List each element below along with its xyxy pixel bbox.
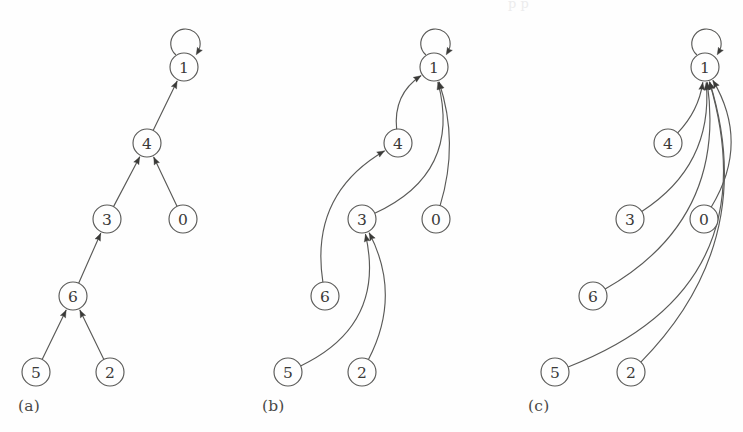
node-label: 3 xyxy=(357,211,367,229)
edge-a-0-to-4 xyxy=(154,157,177,206)
panel-label-c: (c) xyxy=(528,397,549,415)
edge-a-3-to-4 xyxy=(114,157,140,207)
node-label: 2 xyxy=(626,364,636,382)
node-a-4[interactable]: 4 xyxy=(133,129,161,157)
graph-canvas: 143065214306521430652 xyxy=(0,0,743,432)
node-label: 2 xyxy=(105,364,115,382)
node-a-3[interactable]: 3 xyxy=(93,205,121,233)
arrow-head xyxy=(377,151,385,157)
node-c-1[interactable]: 1 xyxy=(691,53,719,81)
edge-c-4-to-1 xyxy=(678,83,705,133)
node-label: 0 xyxy=(699,211,709,229)
node-label: 1 xyxy=(179,59,189,77)
edge-a-2-to-6 xyxy=(80,310,104,359)
self-loop-path xyxy=(692,29,721,55)
edge-a-6-to-3 xyxy=(79,233,101,283)
node-c-0[interactable]: 0 xyxy=(690,205,718,233)
edge-path xyxy=(114,157,140,207)
panel-label-a: (a) xyxy=(18,397,40,415)
node-label: 1 xyxy=(429,59,439,77)
edge-c-1-to-1 xyxy=(692,29,724,55)
node-label: 0 xyxy=(431,211,441,229)
node-c-5[interactable]: 5 xyxy=(541,358,569,386)
edge-path xyxy=(80,310,104,359)
node-label: 5 xyxy=(550,364,560,382)
node-label: 5 xyxy=(31,364,41,382)
node-c-3[interactable]: 3 xyxy=(616,205,644,233)
edge-b-1-to-1 xyxy=(421,29,453,55)
edge-path xyxy=(605,83,710,289)
self-loop-path xyxy=(421,29,450,55)
node-a-5[interactable]: 5 xyxy=(22,358,50,386)
self-loop-path xyxy=(171,29,200,55)
node-label: 5 xyxy=(283,364,293,382)
edge-b-2-to-3 xyxy=(368,233,385,360)
node-b-3[interactable]: 3 xyxy=(348,205,376,233)
edge-path xyxy=(153,81,177,130)
edges-layer xyxy=(42,29,731,367)
node-b-4[interactable]: 4 xyxy=(384,129,412,157)
node-label: 0 xyxy=(178,211,188,229)
node-b-2[interactable]: 2 xyxy=(348,358,376,386)
edge-path xyxy=(396,76,421,129)
edge-path xyxy=(678,83,703,133)
node-b-1[interactable]: 1 xyxy=(420,53,448,81)
edge-a-1-to-1 xyxy=(171,29,203,55)
edge-path xyxy=(368,233,385,360)
node-c-6[interactable]: 6 xyxy=(579,282,607,310)
node-label: 3 xyxy=(625,211,635,229)
node-c-4[interactable]: 4 xyxy=(654,129,682,157)
nodes-layer: 143065214306521430652 xyxy=(22,53,719,386)
figure-root: p p 143065214306521430652 (a)(b)(c) xyxy=(0,0,743,432)
arrow-head xyxy=(699,83,705,91)
node-label: 6 xyxy=(320,288,330,306)
node-label: 4 xyxy=(142,135,152,153)
node-c-2[interactable]: 2 xyxy=(617,358,645,386)
node-label: 4 xyxy=(663,135,673,153)
node-b-0[interactable]: 0 xyxy=(422,205,450,233)
node-a-0[interactable]: 0 xyxy=(169,205,197,233)
edge-a-5-to-6 xyxy=(42,310,66,359)
edge-b-4-to-1 xyxy=(396,76,421,129)
node-a-2[interactable]: 2 xyxy=(96,358,124,386)
node-label: 1 xyxy=(700,59,710,77)
node-label: 6 xyxy=(68,288,78,306)
edge-c-6-to-1 xyxy=(605,83,711,289)
node-a-1[interactable]: 1 xyxy=(170,53,198,81)
edge-path xyxy=(42,310,66,359)
edge-a-4-to-1 xyxy=(153,81,177,130)
node-label: 2 xyxy=(357,364,367,382)
node-label: 6 xyxy=(588,288,598,306)
edge-path xyxy=(79,233,101,283)
node-a-6[interactable]: 6 xyxy=(59,282,87,310)
panel-label-b: (b) xyxy=(262,397,285,415)
node-label: 4 xyxy=(393,135,403,153)
node-b-6[interactable]: 6 xyxy=(311,282,339,310)
node-b-5[interactable]: 5 xyxy=(274,358,302,386)
node-label: 3 xyxy=(102,211,112,229)
edge-path xyxy=(154,157,177,206)
